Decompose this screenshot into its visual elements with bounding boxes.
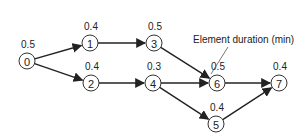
node-label: 4 — [150, 78, 156, 90]
edge-0-to-2 — [35, 64, 83, 80]
node-1: 10.4 — [82, 21, 98, 51]
node-duration: 0.5 — [148, 21, 162, 32]
precedence-diagram: 00.510.420.430.540.360.550.470.4 Element… — [0, 0, 304, 137]
node-label: 1 — [87, 38, 93, 50]
node-4: 40.3 — [145, 61, 161, 91]
node-label: 3 — [151, 38, 157, 50]
node-6: 60.5 — [209, 61, 225, 91]
node-label: 0 — [24, 56, 30, 68]
node-3: 30.5 — [146, 21, 162, 51]
node-duration: 0.3 — [147, 61, 161, 72]
node-label: 5 — [213, 119, 219, 131]
node-duration: 0.4 — [84, 21, 98, 32]
node-duration: 0.4 — [85, 61, 99, 72]
node-2: 20.4 — [83, 61, 99, 91]
node-0: 00.5 — [19, 39, 35, 69]
node-duration: 0.5 — [21, 39, 35, 50]
edge-0-to-1 — [35, 45, 82, 58]
node-label: 7 — [276, 78, 282, 90]
node-label: 2 — [88, 78, 94, 90]
edge-5-to-7 — [223, 88, 272, 120]
edge-3-to-6 — [161, 47, 210, 78]
node-duration: 0.4 — [210, 102, 224, 113]
node-7: 70.4 — [271, 61, 287, 91]
node-duration: 0.4 — [273, 61, 287, 72]
node-5: 50.4 — [208, 102, 224, 132]
node-label: 6 — [214, 78, 220, 90]
annotation-label: Element duration (min) — [193, 34, 294, 45]
edge-4-to-5 — [160, 87, 209, 119]
